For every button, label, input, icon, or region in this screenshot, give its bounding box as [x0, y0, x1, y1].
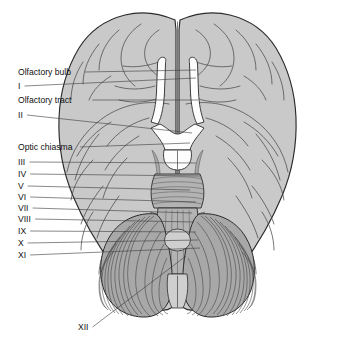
label-optic-chiasma: Optic chiasma [18, 142, 73, 152]
brain-diagram-svg: Olfactory bulbIOlfactory tractIIOptic ch… [0, 0, 355, 355]
label-cn-xi: XI [18, 250, 26, 260]
label-cn-vii: VII [18, 203, 29, 213]
label-cn-ii: II [18, 110, 23, 120]
label-olfactory-bulb: Olfactory bulb [18, 67, 71, 77]
label-cn-vi: VI [18, 192, 26, 202]
label-cn-i: I [18, 81, 20, 91]
brain-anatomy-figure: Olfactory bulbIOlfactory tractIIOptic ch… [0, 0, 355, 355]
label-cn-viii: VIII [18, 214, 31, 224]
label-cn-ix: IX [18, 226, 26, 236]
label-olfactory-tract: Olfactory tract [18, 95, 72, 105]
label-cn-iii: III [18, 157, 25, 167]
label-cn-iv: IV [18, 169, 26, 179]
label-cn-v: V [18, 181, 24, 191]
label-cn-x: X [18, 238, 24, 248]
label-cn-xii: XII [78, 322, 89, 332]
